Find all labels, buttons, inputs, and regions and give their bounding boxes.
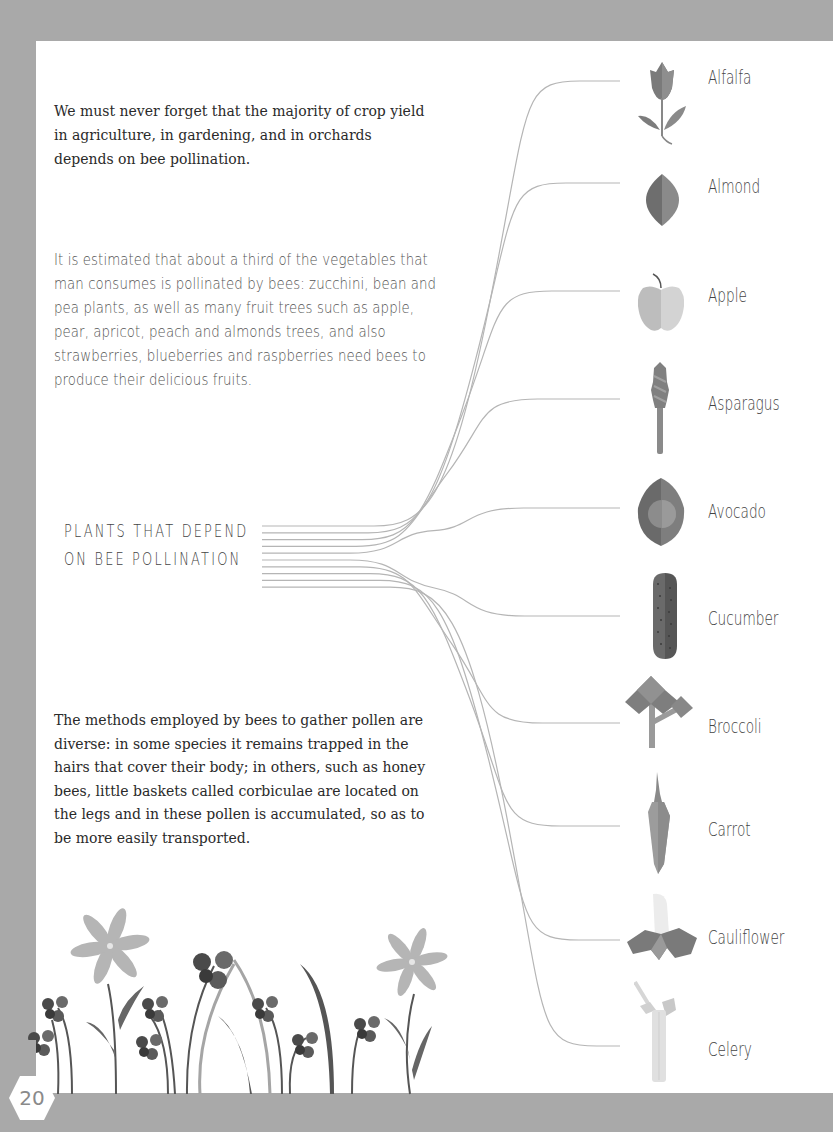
branch-line-apple	[262, 291, 620, 540]
plant-label-alfalfa: Alfalfa	[708, 66, 751, 88]
page-number: 20	[8, 1074, 56, 1122]
almond-icon	[645, 173, 681, 227]
cucumber-icon	[652, 572, 678, 660]
broccoli-icon	[625, 674, 695, 750]
plant-label-asparagus: Asparagus	[708, 392, 780, 414]
carrot-icon	[642, 772, 674, 876]
apple-icon	[637, 272, 687, 334]
avocado-icon	[636, 476, 688, 548]
branch-line-broccoli	[262, 567, 620, 723]
plant-label-carrot: Carrot	[708, 818, 751, 840]
plant-label-cucumber: Cucumber	[708, 607, 778, 629]
plant-label-avocado: Avocado	[708, 500, 766, 522]
asparagus-icon	[650, 362, 670, 456]
plant-label-apple: Apple	[708, 284, 747, 306]
page-number-badge: 20	[8, 1074, 56, 1122]
flower-illustration	[0, 900, 833, 1132]
branch-line-cauliflower	[262, 580, 620, 940]
plant-label-almond: Almond	[708, 175, 760, 197]
branch-line-alfalfa	[262, 81, 620, 526]
plant-label-broccoli: Broccoli	[708, 715, 762, 737]
alfalfa-icon	[636, 60, 690, 146]
branch-line-carrot	[262, 574, 620, 826]
